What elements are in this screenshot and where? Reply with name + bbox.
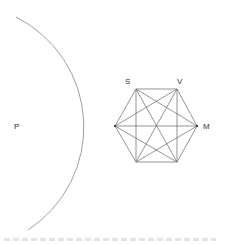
label-s: S	[125, 77, 130, 86]
vertex-left-dot	[114, 125, 116, 127]
large-arc	[16, 17, 84, 230]
label-v: V	[177, 77, 183, 86]
vertex-right-dot	[196, 125, 198, 127]
hexagon-complete-graph	[115, 89, 197, 162]
diagram-canvas: P S V M	[0, 0, 225, 244]
faint-caption-line	[4, 238, 216, 241]
label-m: M	[203, 122, 210, 131]
label-p: P	[14, 122, 19, 131]
